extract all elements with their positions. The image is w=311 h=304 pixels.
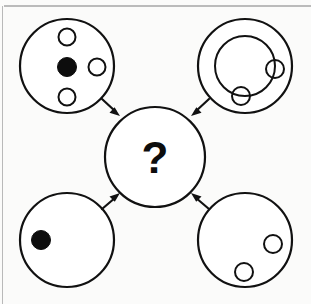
arrow-bottom-right-to-center — [191, 193, 209, 209]
arrow-top-right-to-center — [191, 99, 209, 116]
top-left-open-circle-top — [59, 29, 76, 46]
circle-top-right-outline — [198, 19, 292, 113]
question-mark-label: ? — [142, 133, 169, 182]
node-top-left[interactable] — [20, 19, 114, 113]
top-left-open-circle-bottom — [59, 89, 76, 106]
node-bottom-left[interactable] — [20, 193, 114, 287]
figure-container: ? — [0, 0, 311, 304]
top-left-filled-dot — [58, 58, 77, 77]
node-bottom-right[interactable] — [198, 193, 292, 287]
arrow-bottom-left-to-center — [102, 193, 120, 209]
bottom-right-open-circle-east — [264, 235, 282, 253]
bottom-right-open-circle-south — [235, 263, 253, 281]
node-center-unknown[interactable]: ? — [105, 107, 205, 207]
node-top-right[interactable] — [198, 19, 292, 113]
circles-puzzle-diagram: ? — [0, 0, 311, 304]
arrow-top-left-to-center — [102, 99, 120, 116]
bottom-left-filled-dot — [32, 231, 51, 250]
top-left-open-circle-right — [89, 59, 106, 76]
